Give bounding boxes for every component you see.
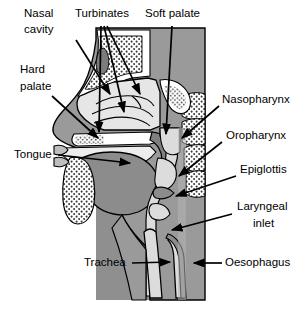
posterior-pharyngeal-wall [178, 128, 186, 300]
label-trachea: Trachea [84, 256, 126, 268]
label-laryngeal-inlet-line2: inlet [253, 217, 275, 229]
label-nasal-cavity-line2: cavity [24, 23, 54, 35]
label-hard-palate-line1: Hard [20, 63, 45, 75]
label-oesophagus: Oesophagus [225, 256, 290, 268]
label-nasal-cavity-line1: Nasal [24, 7, 53, 19]
label-tongue: Tongue [14, 148, 52, 160]
label-turbinates: Turbinates [75, 7, 129, 19]
label-soft-palate: Soft palate [145, 7, 200, 19]
frontal-air-cell [96, 48, 109, 74]
label-epiglottis: Epiglottis [240, 163, 287, 175]
mandible [63, 157, 95, 224]
sagittal-airway-diagram: Nasal cavity Turbinates Soft palate Hard… [0, 0, 305, 322]
leader-trachea [132, 262, 170, 263]
anatomy-figure: Nasal cavity Turbinates Soft palate Hard… [0, 0, 305, 322]
hard-palate-stipple [75, 135, 104, 144]
label-nasopharynx: Nasopharynx [222, 93, 290, 105]
label-laryngeal-inlet-line1: Laryngeal [237, 200, 288, 212]
label-oropharynx: Oropharynx [226, 129, 286, 141]
label-hard-palate-line2: palate [20, 80, 51, 92]
